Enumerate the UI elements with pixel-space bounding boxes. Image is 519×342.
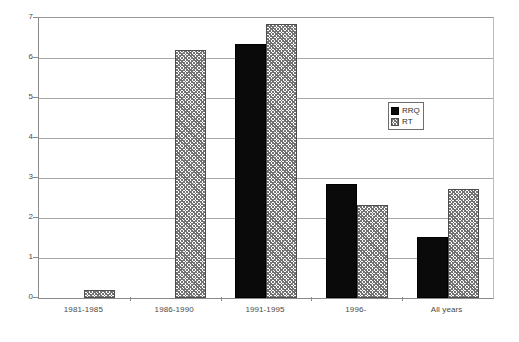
plot-area [38, 17, 494, 299]
bar-group [144, 18, 206, 298]
x-tick-mark [130, 297, 131, 301]
legend-label: RT [402, 117, 413, 126]
bar-rt-1 [175, 50, 206, 298]
x-tick-mark [221, 297, 222, 301]
legend-item-rrq: RRQ [391, 105, 420, 116]
legend-label: RRQ [402, 106, 420, 115]
chart-legend: RRQRT [388, 102, 424, 130]
y-tick-label: 4 [5, 133, 33, 141]
bar-group [417, 18, 479, 298]
bar-rt-4 [448, 189, 479, 298]
legend-swatch-rrq-icon [391, 107, 399, 115]
x-tick-label: 1996- [310, 305, 401, 314]
x-axis: 1981-19851986-19901991-19951996-All year… [38, 305, 494, 319]
y-tick-label: 3 [5, 173, 33, 181]
bar-rrq-3 [326, 184, 357, 298]
bar-group [235, 18, 297, 298]
bar-rt-2 [266, 24, 297, 298]
bar-group [326, 18, 388, 298]
bar-rt-3 [357, 205, 388, 298]
bar-rt-0 [84, 290, 115, 298]
y-tick-label: 5 [5, 93, 33, 101]
x-tick-label: 1986-1990 [129, 305, 220, 314]
bar-group [53, 18, 115, 298]
x-tick-mark [402, 297, 403, 301]
y-tick-label: 7 [5, 13, 33, 21]
x-tick-label: 1981-1985 [38, 305, 129, 314]
y-tick-label: 0 [5, 293, 33, 301]
y-tick-label: 1 [5, 253, 33, 261]
legend-item-rt: RT [391, 116, 420, 127]
legend-swatch-rt-icon [391, 118, 399, 126]
y-axis: 01234567 [0, 17, 33, 297]
bar-rrq-2 [235, 44, 266, 298]
x-tick-label: 1991-1995 [220, 305, 311, 314]
bar-rrq-4 [417, 237, 448, 298]
x-tick-label: All years [401, 305, 492, 314]
y-tick-label: 6 [5, 53, 33, 61]
y-tick-label: 2 [5, 213, 33, 221]
bar-chart: 01234567 1981-19851986-19901991-19951996… [0, 0, 519, 342]
x-tick-mark [311, 297, 312, 301]
